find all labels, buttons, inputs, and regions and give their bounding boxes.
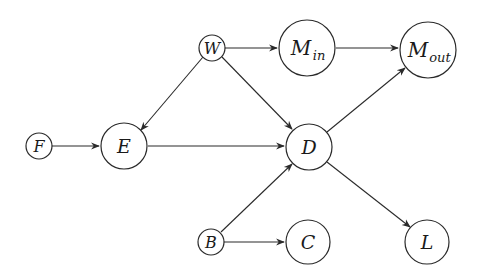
- edge-w-e: [141, 57, 203, 130]
- node-l: L: [405, 220, 449, 264]
- svg-text:F: F: [32, 137, 45, 156]
- svg-text:in: in: [313, 48, 326, 63]
- edge-w-d: [222, 57, 292, 129]
- node-d: D: [286, 124, 332, 170]
- node-m-in: M in: [279, 20, 335, 76]
- svg-text:M: M: [290, 36, 312, 60]
- edge-d-mout: [327, 68, 405, 132]
- svg-text:E: E: [116, 135, 131, 157]
- node-f: F: [26, 133, 52, 159]
- edge-b-d: [221, 164, 292, 232]
- node-c: C: [286, 220, 330, 264]
- svg-text:B: B: [204, 233, 217, 252]
- edge-d-l: [327, 162, 410, 227]
- node-m-out: M out: [400, 22, 456, 78]
- svg-text:C: C: [301, 231, 316, 253]
- causal-graph: W M in M out F E D B C L: [0, 0, 480, 276]
- svg-text:D: D: [300, 136, 316, 158]
- svg-text:L: L: [420, 231, 434, 253]
- node-b: B: [198, 229, 224, 255]
- svg-text:M: M: [407, 38, 429, 62]
- node-w: W: [199, 35, 225, 61]
- node-e: E: [101, 123, 147, 169]
- svg-text:out: out: [429, 50, 451, 65]
- svg-text:W: W: [204, 39, 222, 58]
